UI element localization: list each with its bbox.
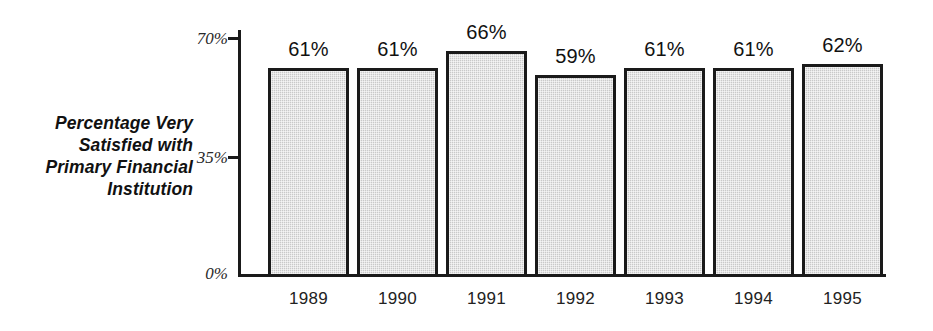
bar-value-1990: 61% xyxy=(357,38,438,61)
x-label-1992: 1992 xyxy=(535,289,616,309)
bar-1991 xyxy=(446,51,527,277)
bar-1993 xyxy=(624,68,705,277)
y-tick-label-35: 35% xyxy=(168,148,228,168)
bar-value-1993: 61% xyxy=(624,38,705,61)
bar-1989 xyxy=(268,68,349,277)
bar-chart: Percentage Very Satisfied with Primary F… xyxy=(0,0,933,331)
bar-value-1992: 59% xyxy=(535,45,616,68)
x-label-1994: 1994 xyxy=(713,289,794,309)
y-tick-mark-70 xyxy=(228,37,239,40)
x-label-1991: 1991 xyxy=(446,289,527,309)
y-tick-mark-35 xyxy=(228,156,239,159)
bar-value-1989: 61% xyxy=(268,38,349,61)
y-tick-label-70: 70% xyxy=(168,29,228,49)
bar-1995 xyxy=(802,64,883,277)
bar-1994 xyxy=(713,68,794,277)
plot-area: 70% 35% 0% 61% 61% 66% 59% 61% 61% 62% 1… xyxy=(0,0,933,331)
x-label-1990: 1990 xyxy=(357,289,438,309)
bar-value-1991: 66% xyxy=(446,21,527,44)
x-label-1993: 1993 xyxy=(624,289,705,309)
bar-value-1995: 62% xyxy=(802,34,883,57)
y-axis-line xyxy=(238,30,241,277)
bar-1992 xyxy=(535,75,616,277)
x-label-1995: 1995 xyxy=(802,289,883,309)
y-tick-label-0: 0% xyxy=(168,264,228,284)
bar-1990 xyxy=(357,68,438,277)
bar-value-1994: 61% xyxy=(713,38,794,61)
x-label-1989: 1989 xyxy=(268,289,349,309)
